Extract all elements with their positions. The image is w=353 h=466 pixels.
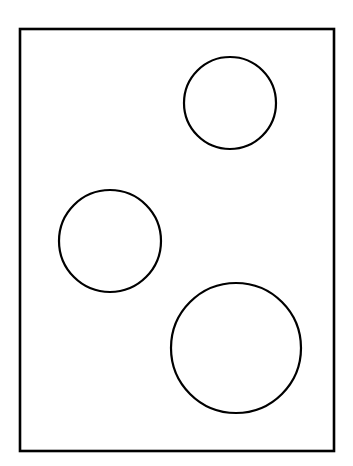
circle-middle-left xyxy=(59,190,161,292)
circle-bottom-right xyxy=(171,283,301,413)
figure-canvas xyxy=(0,0,353,466)
circle-top-right xyxy=(184,57,276,149)
